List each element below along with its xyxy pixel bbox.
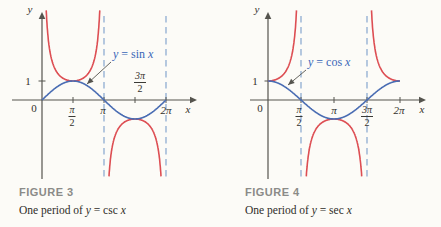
fraction-denominator: 2 [69,117,74,128]
fig3-curve-annotation: y = sin x [113,48,153,60]
fig3-x-tick-3pi-over-2: 3π 2 [134,71,146,94]
fig3-x-tick-2pi: 2π [160,105,171,116]
fig3-y-axis-arrowhead [39,12,46,19]
fraction-numerator: π [295,105,302,117]
fig4-y-tick-1-label: 1 [252,76,258,87]
fraction-numerator: 3π [134,71,146,83]
fraction-numerator: 3π [361,105,373,117]
fig4-y-axis-arrowhead [265,12,272,19]
fig3-y-axis-label: y [28,4,33,15]
fig4-annotation-arrowhead [288,79,295,85]
fig4-sec-curve [268,10,400,176]
fig4-y-axis-label: y [255,4,260,15]
fig4-x-tick-pi-over-2: π 2 [295,105,302,128]
fig4-x-tick-2pi: 2π [393,105,404,116]
fig4-x-tick-pi: π [331,105,337,116]
fig3-origin-label: 0 [31,103,37,114]
fig3-y-tick-1-label: 1 [25,76,31,87]
fig3-x-axis-arrowhead [190,97,197,104]
fraction-numerator: π [68,105,75,117]
fraction-denominator: 2 [364,117,369,128]
fig4-x-tick-3pi-over-2: 3π 2 [361,105,373,128]
textbook-figures-panel: y x 0 1 π 2 π 3π 2 2π y = sin x FIGURE 3… [0,0,441,227]
fig4-figure-label: FIGURE 4 [245,187,300,198]
fig4-origin-label: 0 [257,103,263,114]
fig4-caption: One period of y = sec x [245,205,352,217]
fig3-x-axis-label: x [186,104,191,115]
fraction-denominator: 2 [296,117,301,128]
fig4-curve-annotation: y = cos x [308,56,350,68]
fig4-x-axis-label: x [420,104,425,115]
fig3-figure-label: FIGURE 3 [19,187,74,198]
fig3-x-tick-pi: π [100,105,106,116]
fraction-denominator: 2 [137,83,142,94]
fig3-caption: One period of y = csc x [19,205,126,217]
fig3-x-tick-pi-over-2: π 2 [68,105,75,128]
